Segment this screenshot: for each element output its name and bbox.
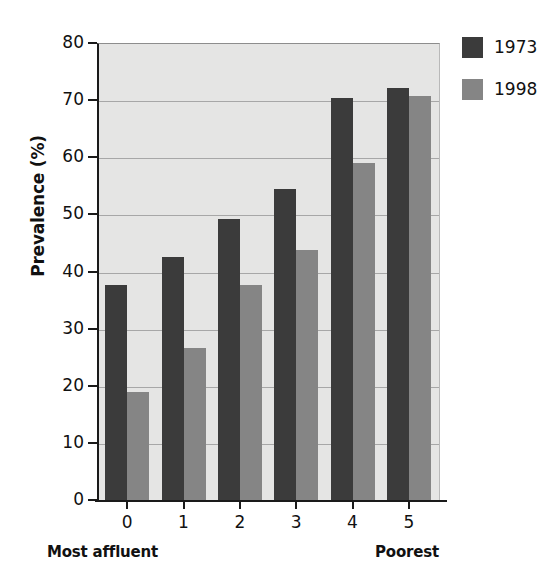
y-tick-mark [88, 385, 97, 387]
y-tick-mark [88, 99, 97, 101]
y-tick-label: 80 [42, 32, 84, 52]
x-tick-label-0: 0 [107, 512, 147, 532]
x-tick-mark [352, 500, 354, 509]
x-tick-label-5: 5 [389, 512, 429, 532]
y-tick-label: 50 [42, 203, 84, 223]
bar-1973-3 [274, 189, 296, 500]
x-axis-left-annotation: Most affluent [47, 543, 158, 561]
x-tick-label-2: 2 [220, 512, 260, 532]
bar-1998-3 [296, 250, 318, 500]
legend-label-1973: 1973 [494, 37, 537, 57]
chart-legend: 19731998 [462, 36, 550, 120]
legend-swatch-1998 [462, 79, 483, 100]
x-tick-mark [183, 500, 185, 509]
bar-1973-5 [387, 88, 409, 500]
bar-1998-4 [353, 163, 375, 500]
y-tick-mark [88, 42, 97, 44]
y-tick-label: 40 [42, 261, 84, 281]
y-tick-label: 10 [42, 432, 84, 452]
x-tick-label-3: 3 [276, 512, 316, 532]
y-tick-mark [88, 271, 97, 273]
y-tick-mark [88, 328, 97, 330]
y-tick-label: 70 [42, 89, 84, 109]
bars-layer [99, 43, 437, 500]
bar-1973-1 [162, 257, 184, 500]
bar-1998-0 [127, 392, 149, 500]
y-tick-mark [88, 442, 97, 444]
bar-1998-1 [184, 348, 206, 500]
x-tick-mark [295, 500, 297, 509]
x-axis-right-annotation: Poorest [375, 543, 439, 561]
y-tick-label: 60 [42, 146, 84, 166]
legend-item-1973: 1973 [462, 36, 550, 58]
y-tick-label: 20 [42, 375, 84, 395]
y-tick-mark [88, 156, 97, 158]
x-tick-mark [408, 500, 410, 509]
bar-1998-5 [409, 96, 431, 500]
x-tick-label-4: 4 [333, 512, 373, 532]
bar-1973-4 [331, 98, 353, 500]
legend-item-1998: 1998 [462, 78, 550, 100]
legend-label-1998: 1998 [494, 79, 537, 99]
x-tick-mark [126, 500, 128, 509]
x-tick-label-1: 1 [164, 512, 204, 532]
x-axis-line [95, 500, 447, 502]
x-tick-mark [239, 500, 241, 509]
bar-1973-0 [105, 285, 127, 500]
y-tick-label: 30 [42, 318, 84, 338]
chart-figure: Prevalence (%) 01020304050607080 012345 … [0, 0, 553, 588]
bar-1973-2 [218, 219, 240, 500]
y-tick-mark [88, 213, 97, 215]
y-tick-label: 0 [42, 489, 84, 509]
legend-swatch-1973 [462, 37, 483, 58]
bar-1998-2 [240, 285, 262, 500]
